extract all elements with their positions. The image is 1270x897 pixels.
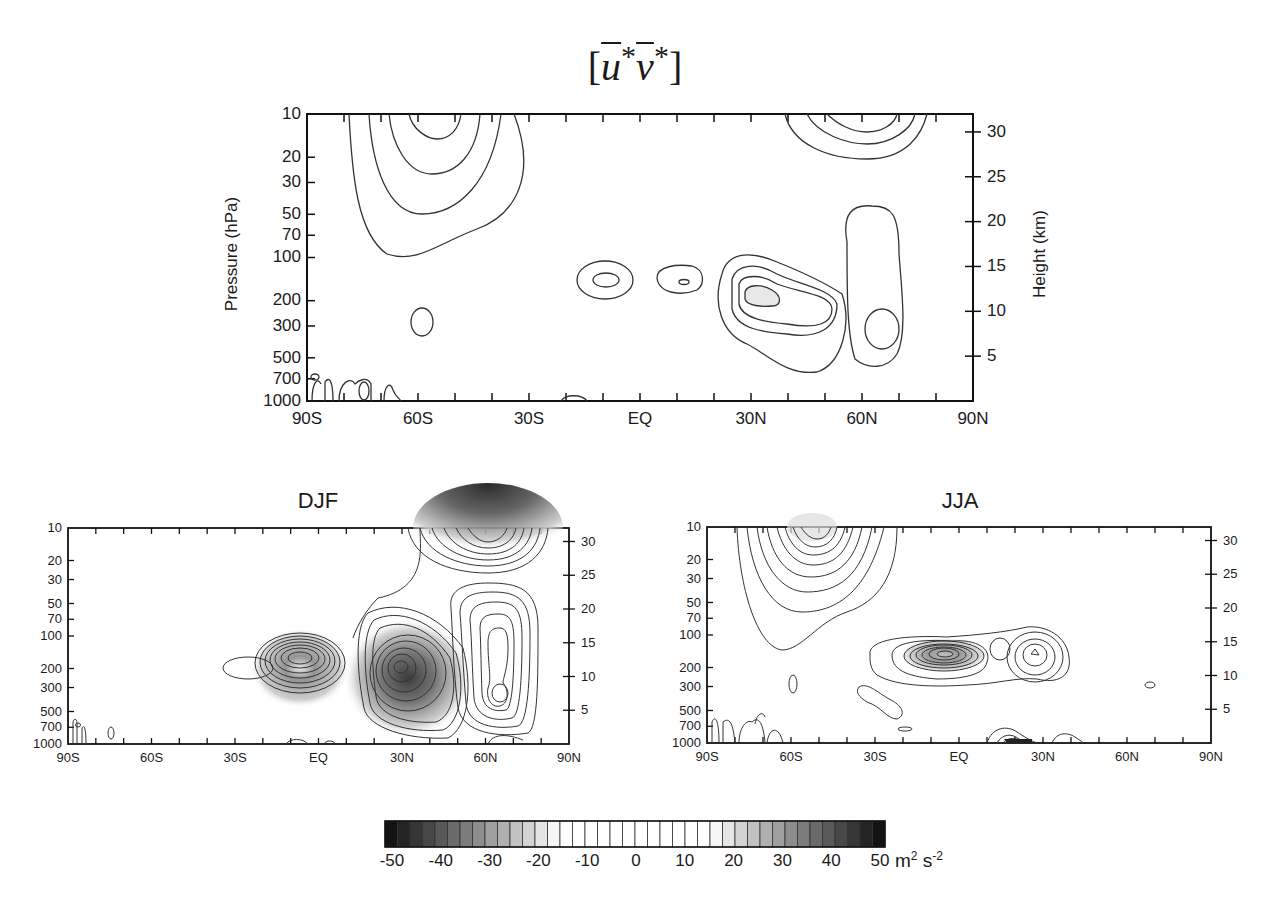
y-tick-label: 100 — [651, 627, 701, 642]
height-tick-label: 20 — [987, 211, 1006, 231]
y-tick-label: 70 — [12, 611, 62, 626]
colorbar-cell — [460, 821, 473, 847]
y-tick-label: 50 — [12, 596, 62, 611]
y-tick-label: 300 — [12, 680, 62, 695]
colorbar-unit: m2 s-2 — [895, 849, 943, 872]
colorbar-cell — [848, 821, 861, 847]
djf-plot-area — [68, 528, 569, 744]
y-tick-label: 10 — [241, 104, 301, 124]
colorbar-tick-label: 0 — [616, 851, 656, 871]
x-tick-label: 60S — [388, 409, 448, 429]
y-tick-label: 30 — [651, 571, 701, 586]
y-tick-label: 200 — [12, 661, 62, 676]
colorbar-cell — [798, 821, 811, 847]
colorbar-cell — [735, 821, 748, 847]
unit-mid: s — [918, 850, 933, 871]
colorbar-cell — [385, 821, 398, 847]
colorbar-cell — [698, 821, 711, 847]
colorbar-cell — [485, 821, 498, 847]
x-tick-label: EQ — [610, 409, 670, 429]
colorbar-cell — [748, 821, 761, 847]
x-tick-label: 30N — [1013, 749, 1073, 764]
height-tick-label: 30 — [1223, 533, 1237, 548]
colorbar-cell — [685, 821, 698, 847]
y-tick-label: 200 — [651, 660, 701, 675]
x-tick-label: 30N — [721, 409, 781, 429]
title-bracket-close: ] — [669, 44, 682, 89]
y-tick-label: 50 — [651, 595, 701, 610]
height-tick-label: 10 — [581, 669, 595, 684]
y-tick-label: 500 — [651, 703, 701, 718]
x-tick-label: EQ — [929, 749, 989, 764]
colorbar-cell — [710, 821, 723, 847]
height-tick-label: 5 — [987, 346, 996, 366]
y-tick-label: 1000 — [241, 391, 301, 411]
height-tick-label: 30 — [581, 534, 595, 549]
colorbar-tick-label: -30 — [470, 851, 510, 871]
colorbar-tick-label: -20 — [518, 851, 558, 871]
colorbar-cell — [623, 821, 636, 847]
colorbar-tick-label: 20 — [714, 851, 754, 871]
x-tick-label: 60N — [832, 409, 892, 429]
y-tick-label: 20 — [241, 147, 301, 167]
y-tick-label: 20 — [651, 552, 701, 567]
colorbar-cell — [473, 821, 486, 847]
colorbar-tick-label: -50 — [372, 851, 412, 871]
title-star-2: * — [654, 39, 669, 72]
y-tick-label: 100 — [12, 628, 62, 643]
y-tick-label: 70 — [651, 610, 701, 625]
height-tick-label: 5 — [1223, 701, 1230, 716]
colorbar-cell — [398, 821, 411, 847]
colorbar-cell — [435, 821, 448, 847]
colorbar-cell — [648, 821, 661, 847]
colorbar-cell — [573, 821, 586, 847]
y-tick-label: 700 — [12, 719, 62, 734]
colorbar-cell — [548, 821, 561, 847]
height-tick-label: 25 — [987, 167, 1006, 187]
height-tick-label: 5 — [581, 702, 588, 717]
x-tick-label: 30S — [499, 409, 559, 429]
colorbar-tick-label: 30 — [762, 851, 802, 871]
colorbar-cell — [860, 821, 873, 847]
colorbar-cell — [760, 821, 773, 847]
y-tick-label: 100 — [241, 247, 301, 267]
colorbar-tick-label: 40 — [811, 851, 851, 871]
height-axis-label: Height (km) — [1030, 199, 1050, 309]
x-tick-label: EQ — [289, 750, 349, 765]
title-u: u — [601, 44, 621, 89]
x-tick-label: 90N — [1181, 749, 1241, 764]
height-tick-label: 25 — [581, 567, 595, 582]
jja-title: JJA — [910, 488, 1010, 514]
y-tick-label: 30 — [241, 172, 301, 192]
x-tick-label: 30N — [372, 750, 432, 765]
pressure-axis-label: Pressure (hPa) — [222, 184, 242, 324]
y-tick-label: 700 — [651, 718, 701, 733]
figure-title: [u*v*] — [0, 26, 1270, 97]
y-tick-label: 300 — [241, 316, 301, 336]
y-tick-label: 1000 — [12, 736, 62, 751]
y-tick-label: 10 — [651, 519, 701, 534]
colorbar-tick-label: -40 — [421, 851, 461, 871]
jja-plot-area — [707, 527, 1211, 743]
y-tick-label: 70 — [241, 225, 301, 245]
x-tick-label: 90S — [277, 409, 337, 429]
colorbar-cell — [635, 821, 648, 847]
colorbar-swatches — [385, 821, 885, 847]
x-tick-label: 30S — [205, 750, 265, 765]
y-tick-label: 500 — [241, 348, 301, 368]
colorbar-tick-label: -10 — [567, 851, 607, 871]
title-v: v — [636, 44, 654, 89]
height-tick-label: 10 — [1223, 668, 1237, 683]
colorbar-cell — [523, 821, 536, 847]
height-tick-label: 15 — [987, 256, 1006, 276]
height-tick-label: 15 — [581, 635, 595, 650]
height-tick-label: 25 — [1223, 566, 1237, 581]
y-tick-label: 20 — [12, 553, 62, 568]
x-tick-label: 90S — [38, 750, 98, 765]
colorbar-cell — [560, 821, 573, 847]
height-tick-label: 20 — [1223, 600, 1237, 615]
colorbar-cell — [773, 821, 786, 847]
y-tick-label: 10 — [12, 520, 62, 535]
y-tick-label: 700 — [241, 369, 301, 389]
height-tick-label: 30 — [987, 122, 1006, 142]
